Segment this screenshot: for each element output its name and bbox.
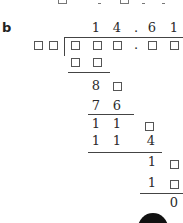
step-blank-box[interactable]: [145, 122, 154, 131]
quotient-digit: 6: [146, 21, 158, 35]
step-digit: 1: [90, 117, 102, 131]
step-digit: 1: [111, 134, 123, 148]
division-bracket: [64, 37, 183, 56]
step-digit: 1: [111, 117, 123, 131]
page-number-badge: [138, 213, 168, 223]
dividend-blank-box[interactable]: [170, 41, 179, 50]
step-digit: 1: [90, 134, 102, 148]
step-digit: 4: [145, 134, 157, 148]
top-partial-box: [58, 0, 67, 4]
divisor-blank-box[interactable]: [34, 41, 43, 50]
subtraction-line: [88, 114, 134, 115]
step-digit: 6: [111, 99, 123, 113]
top-partial-digit: [98, 0, 101, 4]
dividend-blank-box[interactable]: [148, 41, 157, 50]
step-blank-box[interactable]: [170, 180, 179, 189]
step-blank-box[interactable]: [170, 160, 179, 169]
dividend-blank-box[interactable]: [71, 41, 80, 50]
top-partial-box: [120, 0, 129, 4]
step-blank-box[interactable]: [71, 58, 80, 67]
divisor-blank-box[interactable]: [49, 41, 58, 50]
step-digit: 1: [146, 155, 158, 169]
quotient-decimal-point: .: [130, 21, 142, 35]
final-remainder: 0: [168, 196, 180, 210]
top-partial-digit: [162, 0, 165, 4]
part-label: b: [2, 20, 11, 35]
step-digit: 8: [90, 79, 102, 93]
dividend-blank-box[interactable]: [113, 41, 122, 50]
step-digit: 1: [146, 176, 158, 190]
step-blank-box[interactable]: [93, 58, 102, 67]
quotient-digit: 1: [90, 21, 102, 35]
subtraction-line: [68, 72, 110, 73]
step-blank-box[interactable]: [113, 82, 122, 91]
top-partial-digit: [142, 0, 145, 4]
step-digit: 7: [90, 99, 102, 113]
quotient-digit: 4: [111, 21, 123, 35]
dividend-decimal-point: .: [130, 38, 142, 52]
quotient-digit: 1: [168, 21, 180, 35]
subtraction-line: [140, 193, 183, 194]
dividend-blank-box[interactable]: [93, 41, 102, 50]
subtraction-line: [88, 152, 162, 153]
